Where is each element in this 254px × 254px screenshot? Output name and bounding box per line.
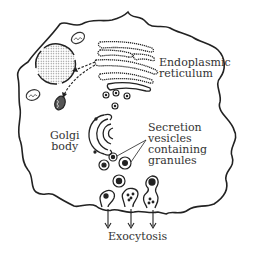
- secretion-vesicles: [99, 153, 131, 187]
- label-line: body: [50, 141, 80, 152]
- label-line: reticulum: [159, 68, 231, 79]
- label-line: Exocytosis: [108, 231, 167, 242]
- mitochondrion-top: [69, 30, 86, 46]
- lysosome-like-organelle: [36, 44, 76, 84]
- label-exocytosis: Exocytosis: [108, 231, 167, 242]
- label-endoplasmic-reticulum: Endoplasmic reticulum: [159, 57, 231, 79]
- endoplasmic-reticulum: [95, 42, 158, 92]
- exocytosis-vesicles: [100, 176, 158, 208]
- label-secretion-vesicles: Secretion vesicles containing granules: [148, 122, 207, 166]
- golgi-body: [89, 114, 113, 155]
- mitochondrion-left: [25, 88, 42, 102]
- label-golgi-body: Golgi body: [50, 130, 80, 152]
- mitochondrion-dark: [53, 95, 67, 112]
- label-line: granules: [148, 155, 207, 166]
- transport-vesicles: [103, 90, 130, 109]
- cell-diagram: [0, 0, 254, 254]
